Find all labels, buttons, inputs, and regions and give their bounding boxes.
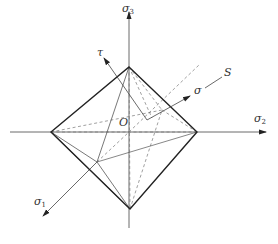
sigma-axis xyxy=(147,96,190,120)
octahedron-diagram: σ3 σ2 σ1 τ σ S O xyxy=(0,0,278,244)
front-edges xyxy=(51,67,130,209)
sigma3-label: σ3 xyxy=(122,3,134,16)
hidden-edges xyxy=(51,65,199,209)
sigma-label: σ xyxy=(194,85,202,96)
sigma2-label: σ2 xyxy=(254,113,266,126)
S-label: S xyxy=(224,67,232,78)
tau-axis xyxy=(104,58,147,120)
tau-label: τ xyxy=(97,47,103,58)
origin-label: O xyxy=(119,117,128,128)
S-leader xyxy=(205,77,222,88)
sigma1-axis xyxy=(43,162,97,216)
sigma1-label: σ1 xyxy=(34,196,46,209)
principal-axes xyxy=(10,12,266,228)
hydrostatic-axis xyxy=(129,65,199,132)
octahedron-outline xyxy=(51,67,197,209)
